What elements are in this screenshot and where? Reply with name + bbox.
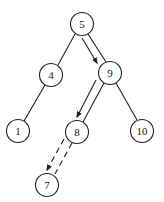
arrow-8-to-7-dashed: [47, 139, 64, 170]
edge-5-4: [58, 34, 75, 65]
node-5: 5: [71, 13, 94, 36]
edge-4-1: [24, 85, 45, 121]
arrow-5-to-9: [82, 38, 97, 63]
node-label: 1: [15, 125, 21, 137]
node-label: 5: [79, 18, 85, 30]
node-label: 10: [137, 125, 149, 137]
node-label: 8: [74, 126, 80, 138]
node-4: 4: [40, 64, 63, 87]
edge-9-8: [83, 83, 104, 122]
node-9: 9: [99, 62, 122, 85]
tree-diagram: 5 4 9 1 8 10 7: [0, 0, 164, 202]
edge-8-7-dashed: [55, 143, 72, 174]
edge-5-9: [88, 34, 106, 62]
node-label: 9: [107, 67, 113, 79]
node-7: 7: [36, 174, 59, 197]
node-8: 8: [66, 121, 89, 144]
node-label: 7: [44, 179, 50, 191]
node-label: 4: [48, 69, 54, 81]
node-1: 1: [7, 120, 30, 143]
edge-9-10: [116, 83, 137, 120]
arrow-9-to-8: [77, 80, 96, 117]
node-10: 10: [131, 120, 154, 143]
